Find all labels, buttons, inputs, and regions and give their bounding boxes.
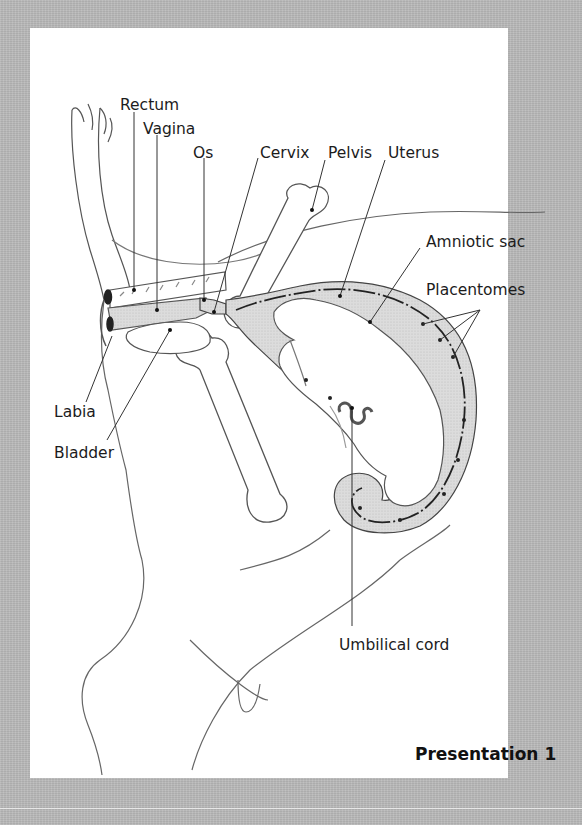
label-pelvis: Pelvis bbox=[328, 146, 372, 162]
label-vagina: Vagina bbox=[143, 122, 195, 138]
label-amniotic-sac: Amniotic sac bbox=[426, 235, 525, 251]
figure-caption: Presentation 1 bbox=[415, 746, 556, 763]
label-placentomes: Placentomes bbox=[426, 283, 525, 299]
label-labia: Labia bbox=[54, 405, 96, 421]
label-rectum: Rectum bbox=[120, 98, 179, 114]
label-os: Os bbox=[193, 146, 213, 162]
label-uterus: Uterus bbox=[388, 146, 439, 162]
label-cervix: Cervix bbox=[260, 146, 309, 162]
label-bladder: Bladder bbox=[54, 446, 114, 462]
label-umbilical-cord: Umbilical cord bbox=[339, 638, 449, 654]
